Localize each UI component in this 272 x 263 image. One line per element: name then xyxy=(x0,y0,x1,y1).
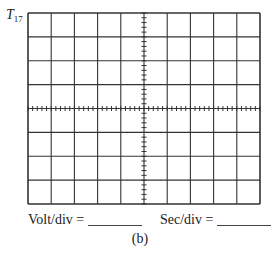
volt-div-blank[interactable] xyxy=(88,211,142,226)
figure-caption: (b) xyxy=(0,231,272,247)
volt-div-field: Volt/div = xyxy=(28,211,142,228)
sec-div-field: Sec/div = xyxy=(160,211,271,228)
sec-div-label: Sec/div = xyxy=(160,212,213,227)
sec-div-blank[interactable] xyxy=(217,211,271,226)
volt-div-label: Volt/div = xyxy=(28,212,84,227)
